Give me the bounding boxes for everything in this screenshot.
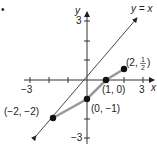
item-bullet: • <box>1 4 5 15</box>
point-0-neg1 <box>84 96 90 102</box>
x-max-label: 3 <box>139 84 145 95</box>
svg-text:2: 2 <box>141 64 145 71</box>
point-label-2-half: (2, 1 2 ) <box>126 56 150 71</box>
svg-text:1: 1 <box>141 56 145 63</box>
coordinate-plane: • y x 3 −3 −3 3 y = x (−2, −2) (0, −1) (… <box>0 0 157 145</box>
point-1-0 <box>103 77 109 83</box>
y-min-label: −3 <box>71 132 83 143</box>
point-label-1-0: (1, 0) <box>102 84 125 95</box>
point-label-0-neg1: (0, −1) <box>91 103 120 114</box>
line-label: y = x <box>130 3 153 14</box>
point-label-neg2-neg2: (−2, −2) <box>4 106 39 117</box>
point-neg2-neg2 <box>50 115 56 121</box>
x-axis-label: x <box>150 82 157 93</box>
x-min-label: −3 <box>21 84 33 95</box>
svg-text:(2,: (2, <box>126 57 138 68</box>
graph-figure: • y x 3 −3 −3 3 y = x (−2, −2) (0, −1) (… <box>0 0 157 145</box>
svg-text:): ) <box>147 57 150 68</box>
y-max-label: 3 <box>76 15 82 26</box>
